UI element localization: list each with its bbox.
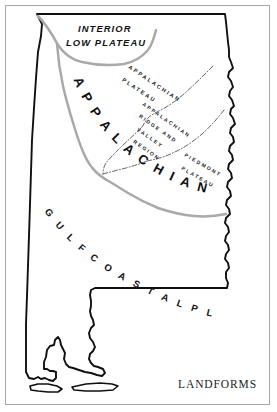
map-canvas: INTERIOR LOW PLATEAU APPALACHIAN PLATEAU… xyxy=(0,0,277,412)
label-interior-low-plateau-line2: LOW PLATEAU xyxy=(66,37,146,48)
landforms-map-figure: INTERIOR LOW PLATEAU APPALACHIAN PLATEAU… xyxy=(0,0,277,412)
barrier-island-outline xyxy=(72,383,118,391)
dauphin-island-outline xyxy=(30,384,62,392)
label-interior-low-plateau-line1: INTERIOR xyxy=(78,23,132,34)
page-title: LANDFORMS xyxy=(178,378,257,390)
